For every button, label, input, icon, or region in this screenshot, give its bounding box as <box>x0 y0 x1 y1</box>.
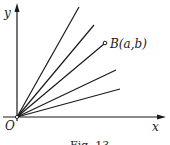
ray-4 <box>17 70 116 117</box>
rays <box>17 7 120 117</box>
ray-2 <box>17 25 94 117</box>
point-b-marker-icon <box>103 41 107 45</box>
origin-label: O <box>5 119 15 133</box>
point-b-label: B(a,b) <box>109 37 147 51</box>
diagram-canvas: y O x B(a,b) Fig. 13 <box>0 0 170 145</box>
y-axis-arrow-icon <box>15 3 20 12</box>
x-axis-label: x <box>152 120 159 134</box>
origin-marker-icon <box>15 115 18 118</box>
ray-1 <box>17 7 79 117</box>
figure-caption: Fig. 13 <box>70 139 109 145</box>
y-axis-label: y <box>3 6 11 20</box>
ray-3-to-b <box>17 44 104 117</box>
x-axis-arrow-icon <box>157 115 166 120</box>
